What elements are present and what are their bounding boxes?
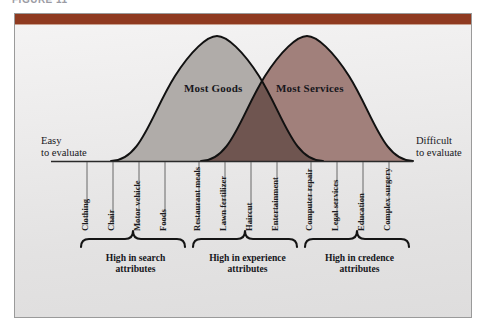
group-label-experience-line1: High in experience [209, 252, 286, 263]
category-label-lawn-fertilizer: Lawn fertilizer [218, 176, 228, 231]
category-label-complex-surgery: Complex surgery [382, 168, 392, 231]
axis-label-easy-line1: Easy [41, 135, 61, 146]
brace-search [81, 231, 185, 247]
axis-label-difficult-line2: to evaluate [416, 147, 462, 158]
category-label-chair: Chair [106, 210, 116, 231]
group-label-credence: High in credence attributes [297, 252, 422, 274]
figure-frame: Easy to evaluate Difficult to evaluate M… [14, 13, 472, 318]
curve-label-most-goods: Most Goods [184, 82, 243, 94]
category-label-restaurant-meals: Restaurant meals [192, 167, 202, 231]
group-label-credence-line1: High in credence [325, 252, 394, 263]
category-label-education: Education [356, 193, 366, 231]
axis-label-easy: Easy to evaluate [41, 135, 87, 158]
group-label-search-line1: High in search [106, 252, 166, 263]
group-label-credence-line2: attributes [340, 263, 380, 274]
category-label-computer-repair: Computer repair [304, 169, 314, 231]
group-label-search: High in search attributes [73, 252, 198, 274]
category-label-clothing: Clothing [80, 199, 90, 231]
group-label-experience-line2: attributes [228, 263, 268, 274]
brace-credence [305, 231, 409, 247]
category-label-entertainment: Entertainment [270, 177, 280, 231]
category-label-legal-services: Legal services [330, 180, 340, 231]
brace-experience [193, 231, 297, 247]
axis-label-difficult-line1: Difficult [416, 135, 452, 146]
category-label-haircut: Haircut [244, 203, 254, 231]
curve-label-most-services: Most Services [276, 82, 344, 94]
axis-label-difficult: Difficult to evaluate [416, 135, 462, 158]
axis-label-easy-line2: to evaluate [41, 147, 87, 158]
figure-caption: FIGURE 11 [12, 0, 68, 5]
group-label-search-line2: attributes [116, 263, 156, 274]
category-label-motor-vehicle: Motor vehicle [132, 180, 142, 231]
group-label-experience: High in experience attributes [185, 252, 310, 274]
category-label-foods: Foods [158, 209, 168, 231]
